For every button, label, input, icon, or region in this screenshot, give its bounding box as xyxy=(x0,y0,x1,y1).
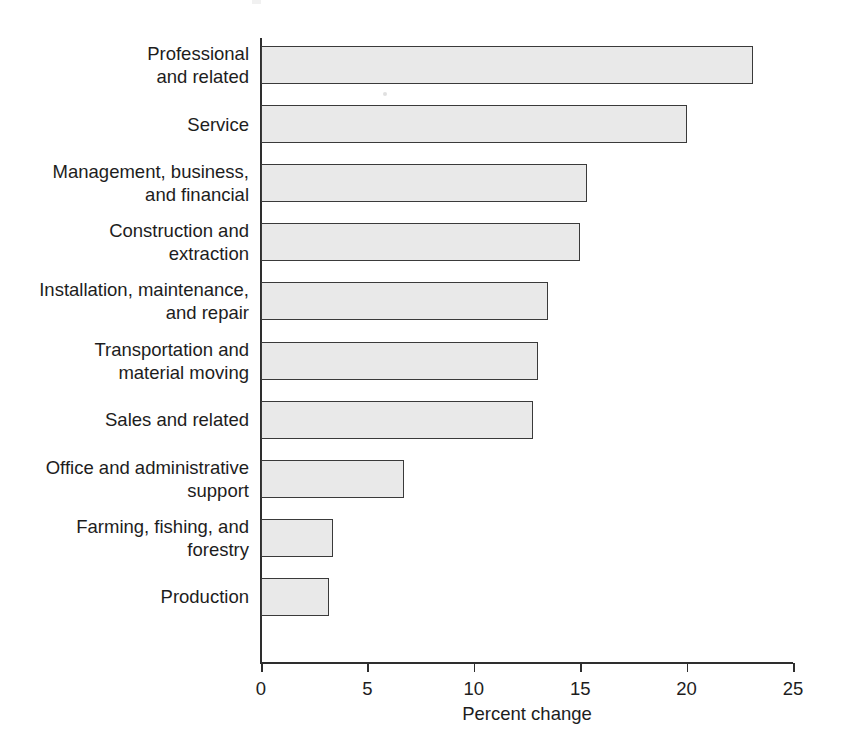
x-axis-tick-label: 0 xyxy=(231,678,291,700)
x-axis-tick-label: 15 xyxy=(550,678,610,700)
bar xyxy=(261,342,538,380)
category-label: Office and administrative support xyxy=(11,456,261,502)
category-label: Professional and related xyxy=(11,42,261,88)
value-axis-line xyxy=(260,662,793,664)
bar xyxy=(261,105,687,143)
bar xyxy=(261,460,404,498)
x-axis-tick xyxy=(367,663,369,672)
bar xyxy=(261,578,329,616)
category-label-column: Professional and relatedServiceManagemen… xyxy=(0,38,261,663)
x-axis-tick xyxy=(474,663,476,672)
category-label: Construction and extraction xyxy=(11,219,261,265)
category-label: Sales and related xyxy=(11,408,261,431)
x-axis-tick-label: 5 xyxy=(337,678,397,700)
x-axis-tick xyxy=(261,663,263,672)
bar xyxy=(261,282,548,320)
bar xyxy=(261,519,333,557)
bar-chart-figure: Professional and relatedServiceManagemen… xyxy=(0,0,864,756)
category-label: Management, business, and financial xyxy=(11,160,261,206)
category-label: Service xyxy=(11,113,261,136)
category-label: Farming, fishing, and forestry xyxy=(11,515,261,561)
x-axis-tick xyxy=(793,663,795,672)
bar xyxy=(261,164,587,202)
x-axis-tick xyxy=(687,663,689,672)
plot-area: 0510152025 xyxy=(261,38,793,663)
x-axis-title: Percent change xyxy=(261,703,793,725)
bar xyxy=(261,46,753,84)
bar xyxy=(261,401,533,439)
category-label: Transportation and material moving xyxy=(11,338,261,384)
x-axis-tick-label: 10 xyxy=(444,678,504,700)
page-artifact-speck xyxy=(252,0,261,4)
x-axis-tick-label: 25 xyxy=(763,678,823,700)
x-axis-tick xyxy=(580,663,582,672)
x-axis-tick-label: 20 xyxy=(657,678,717,700)
bar xyxy=(261,223,580,261)
category-label: Installation, maintenance, and repair xyxy=(11,278,261,324)
category-label: Production xyxy=(11,585,261,608)
